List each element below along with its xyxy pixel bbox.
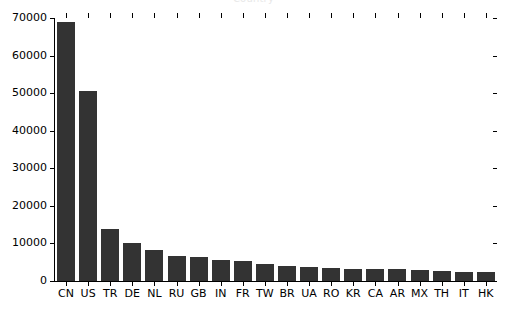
x-tick-mark-bottom bbox=[265, 282, 266, 286]
bar-slot bbox=[475, 18, 497, 281]
x-tick-label-it: IT bbox=[453, 288, 475, 300]
bar-slot bbox=[386, 18, 408, 281]
bar-slot bbox=[453, 18, 475, 281]
bar-it[interactable] bbox=[455, 272, 473, 281]
y-tick-label: 10000 bbox=[0, 237, 47, 248]
x-tick-label-br: BR bbox=[276, 288, 298, 300]
bar-slot bbox=[364, 18, 386, 281]
bar-tr[interactable] bbox=[101, 229, 119, 281]
bar-slot bbox=[77, 18, 99, 281]
bar-slot bbox=[298, 18, 320, 281]
bar-th[interactable] bbox=[433, 271, 451, 281]
x-tick-label-ar: AR bbox=[386, 288, 408, 300]
x-tick-mark-bottom bbox=[177, 282, 178, 286]
bar-ar[interactable] bbox=[388, 269, 406, 281]
bar-br[interactable] bbox=[278, 266, 296, 281]
x-tick-mark-bottom bbox=[243, 282, 244, 286]
x-tick-mark-bottom bbox=[110, 282, 111, 286]
bar-slot bbox=[99, 18, 121, 281]
x-axis-tick-labels: CNUSTRDENLRUGBINFRTWBRUAROKRCAARMXTHITHK bbox=[55, 288, 497, 300]
y-tick-label: 60000 bbox=[0, 50, 47, 61]
bar-nl[interactable] bbox=[145, 250, 163, 281]
bar-us[interactable] bbox=[79, 91, 97, 281]
x-tick-mark-bottom bbox=[486, 282, 487, 286]
bar-slot bbox=[431, 18, 453, 281]
x-tick-mark-bottom bbox=[398, 282, 399, 286]
x-tick-mark-bottom bbox=[375, 282, 376, 286]
x-axis-spine bbox=[54, 281, 497, 282]
x-tick-label-ua: UA bbox=[298, 288, 320, 300]
bar-tw[interactable] bbox=[256, 264, 274, 281]
bar-slot bbox=[276, 18, 298, 281]
plot-area bbox=[55, 18, 497, 281]
x-tick-mark-bottom bbox=[464, 282, 465, 286]
x-tick-label-de: DE bbox=[121, 288, 143, 300]
x-tick-label-ro: RO bbox=[320, 288, 342, 300]
x-tick-mark-bottom bbox=[331, 282, 332, 286]
x-tick-mark-bottom bbox=[154, 282, 155, 286]
y-tick-label: 50000 bbox=[0, 87, 47, 98]
x-tick-mark-bottom bbox=[199, 282, 200, 286]
x-tick-label-nl: NL bbox=[143, 288, 165, 300]
y-tick-label: 20000 bbox=[0, 200, 47, 211]
bar-slot bbox=[254, 18, 276, 281]
y-tick-label: 40000 bbox=[0, 125, 47, 136]
bar-kr[interactable] bbox=[344, 269, 362, 281]
bar-slot bbox=[188, 18, 210, 281]
bar-slot bbox=[409, 18, 431, 281]
x-tick-label-cn: CN bbox=[55, 288, 77, 300]
y-axis-spine bbox=[54, 18, 55, 282]
x-tick-label-hk: HK bbox=[475, 288, 497, 300]
chart-title: Country bbox=[0, 0, 507, 4]
x-tick-mark-bottom bbox=[287, 282, 288, 286]
bar-ru[interactable] bbox=[168, 256, 186, 281]
x-tick-mark-bottom bbox=[66, 282, 67, 286]
bar-slot bbox=[342, 18, 364, 281]
x-tick-label-us: US bbox=[77, 288, 99, 300]
bar-ua[interactable] bbox=[300, 267, 318, 281]
bar-slot bbox=[143, 18, 165, 281]
bar-gb[interactable] bbox=[190, 257, 208, 281]
bar-slot bbox=[320, 18, 342, 281]
bar-cn[interactable] bbox=[57, 22, 75, 281]
bar-chart-figure: Country 01000020000300004000050000600007… bbox=[0, 0, 507, 311]
x-tick-label-tr: TR bbox=[99, 288, 121, 300]
bar-fr[interactable] bbox=[234, 261, 252, 281]
x-tick-label-tw: TW bbox=[254, 288, 276, 300]
x-tick-mark-bottom bbox=[132, 282, 133, 286]
x-tick-mark-bottom bbox=[309, 282, 310, 286]
x-tick-label-mx: MX bbox=[409, 288, 431, 300]
x-tick-label-kr: KR bbox=[342, 288, 364, 300]
x-tick-mark-bottom bbox=[353, 282, 354, 286]
bar-series bbox=[55, 18, 497, 281]
x-tick-mark-bottom bbox=[420, 282, 421, 286]
bar-slot bbox=[55, 18, 77, 281]
bar-in[interactable] bbox=[212, 260, 230, 281]
bar-ro[interactable] bbox=[322, 268, 340, 281]
x-tick-mark-bottom bbox=[221, 282, 222, 286]
bar-hk[interactable] bbox=[477, 272, 495, 281]
y-tick-label: 0 bbox=[0, 275, 47, 286]
bar-slot bbox=[165, 18, 187, 281]
x-tick-mark-bottom bbox=[442, 282, 443, 286]
x-tick-label-ca: CA bbox=[364, 288, 386, 300]
bar-slot bbox=[121, 18, 143, 281]
x-tick-label-in: IN bbox=[210, 288, 232, 300]
bar-mx[interactable] bbox=[411, 270, 429, 281]
bar-slot bbox=[232, 18, 254, 281]
x-tick-label-ru: RU bbox=[165, 288, 187, 300]
x-tick-label-th: TH bbox=[431, 288, 453, 300]
x-tick-label-fr: FR bbox=[232, 288, 254, 300]
bar-ca[interactable] bbox=[366, 269, 384, 281]
y-tick-label: 30000 bbox=[0, 162, 47, 173]
x-tick-mark-bottom bbox=[88, 282, 89, 286]
bar-de[interactable] bbox=[123, 243, 141, 281]
y-tick-label: 70000 bbox=[0, 12, 47, 23]
x-tick-label-gb: GB bbox=[188, 288, 210, 300]
bar-slot bbox=[210, 18, 232, 281]
